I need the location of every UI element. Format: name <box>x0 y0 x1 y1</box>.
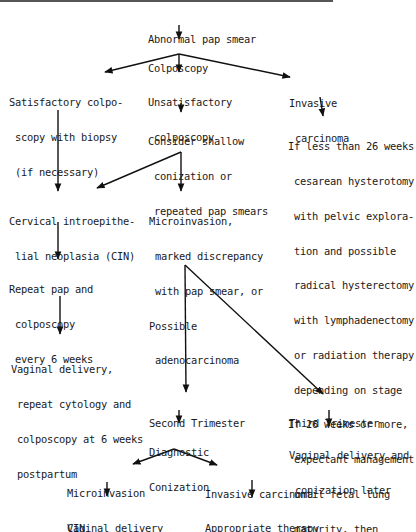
node-diagnostic-conization: Diagnostic Conization <box>149 424 209 505</box>
node-microinvasion-discrepancy: Microinvasion, marked discrepancy with p… <box>149 193 263 379</box>
node-satisfactory-colposcopy: Satisfactory colpo- scopy with biopsy (i… <box>9 74 123 190</box>
node-vaginal-delivery: Vaginal delivery <box>67 500 163 532</box>
node-appropriate-therapy: Appropriate therapy (as above) <box>205 500 319 532</box>
